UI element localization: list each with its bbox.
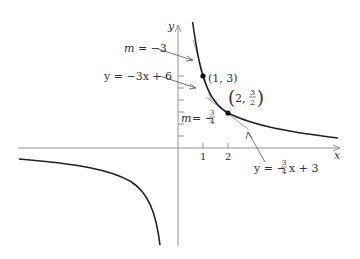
open-paren: ( bbox=[228, 87, 235, 108]
point-label-2-3-2: ( 2, 3 2 ) bbox=[228, 87, 264, 108]
x-tick-label-2: 2 bbox=[225, 151, 231, 162]
x-axis-label: x bbox=[334, 149, 341, 162]
hyperbola-tangent-diagram: y x 1 2 (1, 3) ( 2, 3 2 ) m = −3 y = −3x… bbox=[0, 0, 360, 259]
axes bbox=[18, 25, 340, 246]
slope-label-tangent-2: m = − 3 4 bbox=[181, 109, 215, 126]
fraction-denominator: 4 bbox=[282, 168, 287, 176]
eq-prefix: y = − bbox=[253, 162, 286, 175]
slope-label-tangent-1: m = −3 bbox=[124, 42, 167, 55]
fraction-denominator: 2 bbox=[250, 98, 255, 107]
fraction-numerator: 3 bbox=[282, 159, 286, 167]
fraction-denominator: 4 bbox=[210, 118, 215, 126]
y-axis-label: y bbox=[167, 20, 175, 33]
equation-label-tangent-1: y = −3x + 6 bbox=[103, 70, 172, 83]
point-2-x: 2, bbox=[235, 92, 246, 105]
fraction-numerator: 3 bbox=[250, 88, 255, 97]
point-1-3 bbox=[200, 73, 205, 78]
eq-suffix: x + 3 bbox=[289, 162, 318, 175]
point-2-1.5 bbox=[225, 110, 230, 115]
x-tick-label-1: 1 bbox=[200, 151, 206, 162]
close-paren: ) bbox=[257, 87, 264, 108]
point-label-1-3: (1, 3) bbox=[208, 72, 238, 85]
hyperbola-left-branch bbox=[19, 159, 160, 245]
slope-var: m bbox=[181, 112, 191, 125]
equation-label-tangent-2: y = − 3 4 x + 3 bbox=[253, 159, 318, 176]
fraction-numerator: 3 bbox=[210, 109, 214, 117]
